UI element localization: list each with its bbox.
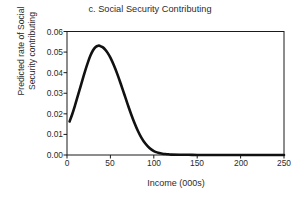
chart-figure: c. Social Security Contributing Predicte… xyxy=(0,0,300,200)
data-series-line xyxy=(70,46,284,155)
plot-area xyxy=(0,0,300,200)
plot-frame xyxy=(67,32,284,156)
y-axis-ticks xyxy=(64,32,68,156)
